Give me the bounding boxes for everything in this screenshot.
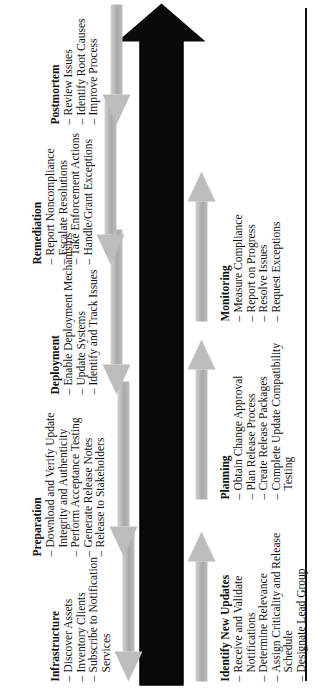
phase-arrow-icon: [186, 531, 216, 681]
phase-item: Generate Release Notes: [81, 381, 94, 556]
phase-arrow-icon: [108, 381, 138, 556]
phase-item: Complete Update Compatibility Testing: [269, 339, 294, 499]
phase-item: Improve Process: [86, 4, 99, 124]
phase-planning: Planning Obtain Change Approval Plan Rel…: [186, 339, 294, 499]
phase-title: Planning: [218, 339, 230, 499]
phase-identify-new-updates: Identify New Updates Receive and Validat…: [186, 531, 307, 681]
phase-item: Download and Verify Update Integrity and…: [43, 381, 68, 556]
phase-item: Designate Lead Group: [294, 531, 307, 681]
phase-title: Postmortem: [48, 4, 60, 124]
phase-items: Measure Compliance Report on Progress Re…: [231, 171, 281, 321]
timeline-diagram: Day 1 Days 2–4 Days 5–7 Days 8–12 Identi…: [0, 0, 322, 689]
phase-postmortem: Postmortem Review Issues Identify Root C…: [48, 4, 131, 124]
phase-items: Receive and Validate Notifications Deter…: [231, 531, 307, 681]
phase-item: Resolve Issues: [256, 171, 269, 321]
phase-arrow-icon: [186, 171, 216, 321]
phase-title: Preparation: [30, 381, 42, 556]
phase-item: Create Release Packages: [256, 339, 269, 499]
phase-item: Plan Release Process: [244, 339, 257, 499]
timeline-bar: [139, 37, 183, 685]
phase-item: Measure Compliance: [231, 171, 244, 321]
phase-item: Perform Acceptance Testing: [68, 381, 81, 556]
phase-monitoring: Monitoring Measure Compliance Report on …: [186, 171, 281, 321]
phase-item: Assign Criticality and Release Schedule: [269, 531, 294, 681]
phase-items: Download and Verify Update Integrity and…: [43, 381, 106, 556]
phase-item: Identify Root Causes: [74, 4, 87, 124]
phase-item: Determine Relevance: [256, 531, 269, 681]
phase-title: Identify New Updates: [218, 531, 230, 681]
phase-items: Obtain Change Approval Plan Release Proc…: [231, 339, 294, 499]
phase-item: Obtain Change Approval: [231, 339, 244, 499]
phase-item: Request Exceptions: [269, 171, 282, 321]
phase-item: Receive and Validate Notifications: [231, 531, 256, 681]
phase-title: Monitoring: [218, 171, 230, 321]
phase-items: Review Issues Identify Root Causes Impro…: [61, 4, 99, 124]
phase-item: Review Issues: [61, 4, 74, 124]
phase-preparation: Preparation Download and Verify Update I…: [30, 381, 138, 556]
phase-title: Remediation: [30, 99, 42, 264]
phase-item: Report on Progress: [244, 171, 257, 321]
phase-arrow-icon: [186, 339, 216, 499]
phase-arrow-icon: [101, 4, 131, 124]
phase-item: Release to Stakeholders: [93, 381, 106, 556]
